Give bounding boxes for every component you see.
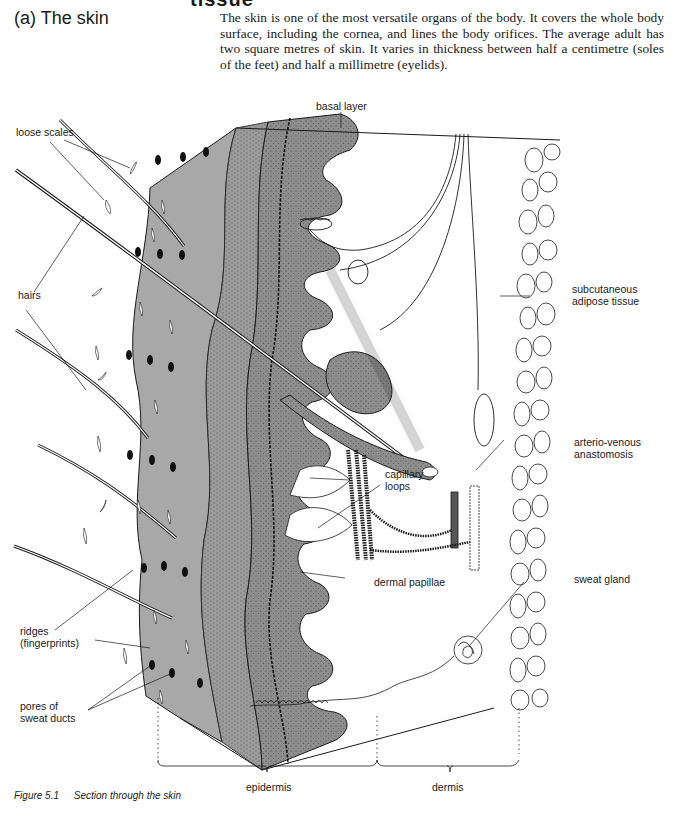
label-ridges-fingerprints: ridges (fingerprints): [20, 625, 79, 649]
label-sweat-gland: sweat gland: [574, 573, 630, 585]
skin-section-diagram: [0, 0, 674, 814]
label-epidermis: epidermis: [246, 781, 292, 793]
label-loose-scales: loose scales: [16, 126, 74, 138]
textbook-page: tissue (a) The skin The skin is one of t…: [0, 0, 674, 814]
label-pores-of-sweat-ducts: pores of sweat ducts: [20, 700, 75, 724]
adipose-tissue: [510, 140, 564, 720]
label-dermis: dermis: [432, 781, 464, 793]
figure-caption-text: Section through the skin: [74, 790, 181, 801]
label-hairs: hairs: [18, 289, 41, 301]
label-dermal-papillae: dermal papillae: [374, 576, 445, 588]
label-subcutaneous-adipose-tissue: subcutaneous adipose tissue: [572, 283, 639, 307]
blood-vessels: [285, 450, 479, 570]
label-basal-layer: basal layer: [316, 100, 367, 112]
label-arterio-venous-anastomosis: arterio-venous anastomosis: [574, 436, 641, 460]
label-capillary-loops: capillary loops: [385, 468, 424, 492]
figure-number: Figure 5.1: [14, 790, 59, 801]
figure-caption: Figure 5.1 Section through the skin: [14, 790, 181, 801]
